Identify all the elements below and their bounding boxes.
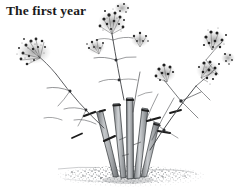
plant-illustration — [0, 0, 239, 192]
stem-node — [142, 110, 148, 111]
page-title: The first year — [6, 3, 86, 19]
botanical-illustration-figure: The first year — [0, 0, 239, 192]
flower-umbel — [114, 2, 130, 14]
thick-stem — [127, 98, 134, 179]
stem-node — [114, 105, 121, 106]
